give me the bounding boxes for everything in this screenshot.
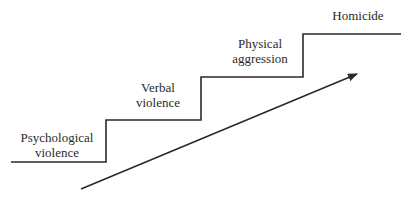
step-label-line: Homicide bbox=[318, 8, 398, 23]
step-label-line: aggression bbox=[220, 51, 300, 66]
step-label-line: Verbal bbox=[118, 80, 198, 95]
step-label-verbal-violence: Verbal violence bbox=[118, 80, 198, 110]
step-label-line: violence bbox=[12, 145, 102, 160]
step-label-psychological-violence: Psychological violence bbox=[12, 130, 102, 160]
step-label-line: violence bbox=[118, 95, 198, 110]
step-label-physical-aggression: Physical aggression bbox=[220, 36, 300, 66]
step-label-line: Psychological bbox=[12, 130, 102, 145]
step-label-homicide: Homicide bbox=[318, 8, 398, 23]
escalation-diagram bbox=[0, 0, 417, 204]
step-label-line: Physical bbox=[220, 36, 300, 51]
